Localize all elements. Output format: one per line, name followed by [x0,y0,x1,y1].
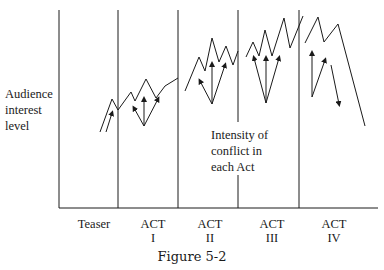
segment-label-text: ACT [309,217,359,231]
act1-arrow-right [144,99,158,126]
segment-label-teaser: Teaser [69,217,119,231]
segment-label-act4: ACT IV [309,217,359,245]
act3-arrow-left [254,58,266,103]
segment-label-text: ACT [185,217,235,231]
annotation-line3: each Act [211,159,268,175]
act1-arrow-left [134,108,144,126]
act4-arrow-diag [312,60,325,97]
annotation-line1: Intensity of [211,127,268,143]
y-axis-label: Audience interest level [5,86,53,134]
segment-label-num: IV [309,231,359,245]
segment-label-text: ACT [128,217,178,231]
y-label-line3: level [5,118,53,134]
annotation-line2: conflict in [211,143,268,159]
act3-arrow-right [266,58,279,103]
act4-arrow-down [331,65,339,104]
segment-label-num: I [128,231,178,245]
interest-line-act1 [118,78,178,110]
segment-label-act2: ACT II [185,217,235,245]
act2-arrow-left [200,81,212,104]
teaser-arrow [106,113,112,132]
y-label-line1: Audience [5,86,53,102]
y-label-line2: interest [5,102,53,118]
intensity-annotation: Intensity of conflict in each Act [209,127,270,175]
interest-line-teaser [100,99,118,132]
segment-label-num: III [247,231,297,245]
act2-arrow-right [212,65,225,104]
segment-label-num: II [185,231,235,245]
interest-line-act4 [305,17,365,126]
interest-line-act3 [246,16,303,57]
segment-label-act3: ACT III [247,217,297,245]
figure-caption: Figure 5-2 [0,249,384,264]
segment-label-act1: ACT I [128,217,178,245]
segment-label-text: ACT [247,217,297,231]
segment-label-text: Teaser [69,217,119,231]
